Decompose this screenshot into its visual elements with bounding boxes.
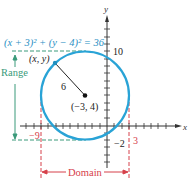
y-axis [104,15,110,168]
circle-point [53,61,57,65]
tick-label-x-neg9: −9 [29,130,40,141]
tick-label-y-10: 10 [113,46,123,57]
radius-line [55,63,85,96]
point-label: (x, y) [29,53,50,65]
x-axis [20,123,182,129]
y-axis-label: y [103,4,108,14]
tick-label-x-3: 3 [133,135,138,146]
x-axis-label: x [182,122,187,132]
range-guides [12,51,86,140]
range-label: Range [1,67,28,78]
equation-label: (x + 3)² + (y − 4)² = 36 [4,37,105,49]
tick-label-y-neg2: −2 [114,138,125,149]
domain-label: Domain [68,167,103,178]
circle-diagram: (x + 3)² + (y − 4)² = 36 (x, y) Range 6 … [0,0,190,182]
center-point [83,93,88,98]
radius-label: 6 [61,81,66,92]
center-label: (−3, 4) [71,101,98,113]
